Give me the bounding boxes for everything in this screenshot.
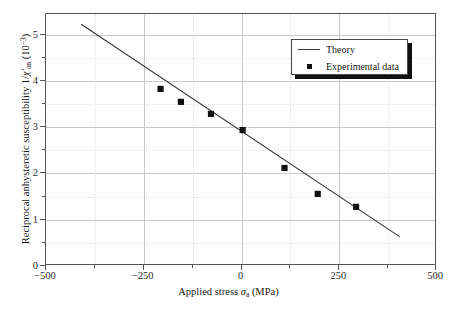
legend: Theory Experimental data: [291, 39, 408, 75]
x-tick-label: 250: [330, 270, 346, 281]
x-axis-label-units: (MPa): [249, 286, 278, 297]
x-tick-label: 500: [427, 270, 443, 281]
data-point-marker: [353, 204, 359, 210]
y-tick-major: [40, 126, 45, 127]
data-point-marker: [178, 99, 184, 105]
y-tick-label: 0: [26, 260, 38, 271]
x-tick-minor: [192, 265, 193, 268]
y-tick-major: [40, 265, 45, 266]
y-tick-minor: [42, 103, 45, 104]
x-axis-label: Applied stress σa (MPa): [0, 286, 457, 299]
line-swatch-icon: [298, 49, 320, 50]
x-tick-label: −250: [132, 270, 154, 281]
y-tick-major: [40, 80, 45, 81]
legend-item-theory: Theory: [292, 41, 407, 58]
legend-line-key: [292, 49, 326, 50]
y-tick-major: [40, 34, 45, 35]
y-axis-label-prefix: Reciprocal anhysteretic susceptibility 1…: [20, 76, 31, 244]
y-tick-major: [40, 172, 45, 173]
figure-chart: −500 −250 0 250 500 0 1 2 3 4 5 Applied …: [0, 0, 457, 309]
data-point-marker: [240, 127, 246, 133]
x-tick-label: −500: [34, 270, 56, 281]
data-point-marker: [208, 111, 214, 117]
legend-item-experimental-data: Experimental data: [292, 58, 407, 75]
y-axis-label-units-exponent: −3: [19, 37, 28, 45]
y-axis-label-units-open: (10: [20, 45, 31, 62]
x-tick-minor: [94, 265, 95, 268]
legend-label-theory: Theory: [326, 44, 355, 55]
y-tick-major: [40, 219, 45, 220]
legend-label-experimental-data: Experimental data: [326, 61, 399, 72]
x-tick-label: 0: [238, 270, 243, 281]
experimental-data-markers: [157, 86, 359, 210]
square-marker-icon: [307, 64, 312, 69]
y-tick-minor: [42, 149, 45, 150]
x-tick-minor: [289, 265, 290, 268]
y-axis-label-symbol: χ′: [20, 69, 31, 76]
data-point-marker: [281, 165, 287, 171]
x-axis-label-prefix: Applied stress: [178, 286, 240, 297]
x-tick-minor: [387, 265, 388, 268]
y-axis-label-units-close: ): [20, 34, 31, 38]
y-tick-minor: [42, 242, 45, 243]
y-tick-minor: [42, 57, 45, 58]
y-axis-label: Reciprocal anhysteretic susceptibility 1…: [19, 29, 33, 249]
y-tick-minor: [42, 196, 45, 197]
data-point-marker: [315, 191, 321, 197]
data-point-marker: [157, 86, 163, 92]
legend-square-key: [292, 64, 326, 69]
y-axis-label-subscript: an: [24, 62, 33, 69]
